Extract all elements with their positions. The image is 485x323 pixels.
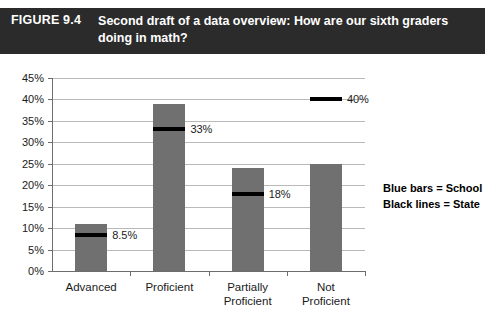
bar <box>232 168 264 271</box>
x-axis-tick-label: Partially Proficient <box>224 280 272 308</box>
gridline <box>52 121 365 122</box>
x-axis-tick-label: Proficient <box>145 280 193 294</box>
x-axis-tick-label: Not Proficient <box>302 280 350 308</box>
state-marker-line <box>310 97 342 101</box>
x-tick-mark <box>287 271 288 276</box>
data-value-label: 33% <box>190 123 212 135</box>
data-value-label: 18% <box>269 188 291 200</box>
legend-item-state: Black lines = State <box>383 197 482 213</box>
y-axis-tick-label: 25% <box>0 158 44 170</box>
state-marker-line <box>153 127 185 131</box>
gridline <box>52 78 365 79</box>
y-axis-tick-label: 35% <box>0 115 44 127</box>
state-marker-line <box>75 233 107 237</box>
y-axis-tick-label: 20% <box>0 179 44 191</box>
figure-number: FIGURE 9.4 <box>11 13 81 27</box>
chart-legend: Blue bars = School Black lines = State <box>383 181 482 213</box>
y-axis-tick-label: 30% <box>0 136 44 148</box>
x-tick-mark <box>209 271 210 276</box>
y-axis-tick-label: 5% <box>0 244 44 256</box>
x-tick-mark <box>365 271 366 276</box>
y-axis-tick-label: 40% <box>0 93 44 105</box>
figure-title: Second draft of a data overview: How are… <box>98 13 475 47</box>
bar <box>310 164 342 271</box>
x-axis-tick-label: Advanced <box>66 280 117 294</box>
data-value-label: 8.5% <box>112 229 137 241</box>
gridline <box>52 142 365 143</box>
plot-area: 8.5%33%18%40% <box>52 78 365 271</box>
data-value-label: 40% <box>347 93 369 105</box>
legend-item-school: Blue bars = School <box>383 181 482 197</box>
y-axis-tick-label: 15% <box>0 201 44 213</box>
x-tick-mark <box>130 271 131 276</box>
bar-chart: 8.5%33%18%40% Blue bars = School Black l… <box>0 54 485 323</box>
bar <box>75 224 107 271</box>
y-axis-tick-label: 10% <box>0 222 44 234</box>
y-axis-line <box>52 78 53 272</box>
y-axis-tick-label: 45% <box>0 72 44 84</box>
state-marker-line <box>232 192 264 196</box>
figure-caption-bar: FIGURE 9.4 Second draft of a data overvi… <box>0 8 485 54</box>
y-axis-tick-label: 0% <box>0 265 44 277</box>
